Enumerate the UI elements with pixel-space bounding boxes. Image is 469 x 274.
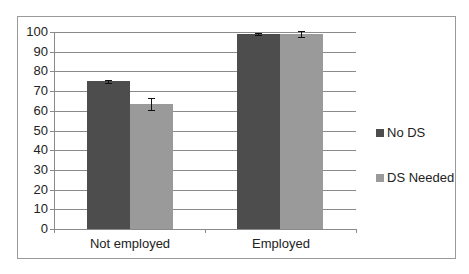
legend-label: No DS [387, 125, 425, 140]
xtick-label: Employed [206, 236, 356, 251]
bar-ds-needed [280, 34, 323, 229]
error-cap [105, 80, 112, 81]
bar-ds-needed [130, 104, 173, 229]
legend-swatch [376, 174, 384, 182]
ytick-label: 100 [8, 25, 48, 39]
ytick-label: 50 [8, 124, 48, 138]
ytick-label: 70 [8, 84, 48, 98]
ytick-label: 10 [8, 202, 48, 216]
error-cap [105, 83, 112, 84]
error-cap [148, 110, 155, 111]
ytick-label: 40 [8, 143, 48, 157]
xtick-label: Not employed [55, 236, 205, 251]
legend-item: No DS [376, 125, 425, 140]
bar-no-ds [87, 81, 130, 229]
ytick-label: 60 [8, 104, 48, 118]
ytick-label: 0 [8, 222, 48, 236]
ytick-label: 20 [8, 183, 48, 197]
error-cap [148, 98, 155, 99]
xtick-mark [54, 229, 55, 233]
ytick-label: 30 [8, 163, 48, 177]
error-cap [255, 35, 262, 36]
xtick-mark [356, 229, 357, 233]
legend-item: DS Needed [376, 170, 454, 185]
error-cap [298, 37, 305, 38]
legend-label: DS Needed [387, 170, 454, 185]
y-axis [54, 32, 55, 230]
bar-no-ds [237, 34, 280, 229]
xtick-mark [205, 229, 206, 233]
error-cap [298, 31, 305, 32]
ytick-label: 80 [8, 64, 48, 78]
gridline [54, 32, 356, 33]
legend-swatch [376, 129, 384, 137]
error-bar [151, 98, 152, 110]
ytick-label: 90 [8, 45, 48, 59]
